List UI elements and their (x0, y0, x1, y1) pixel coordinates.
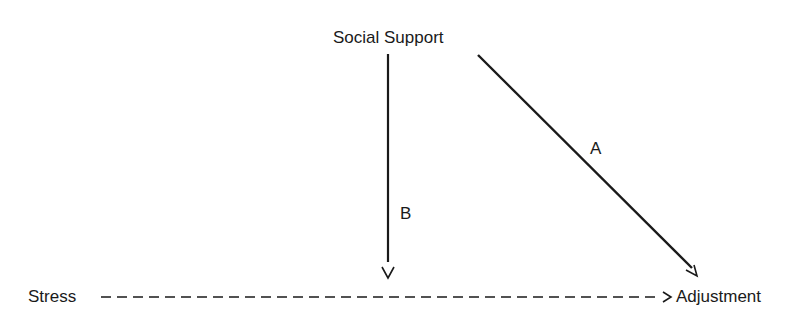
stress-adjustment-arrowhead-icon (663, 292, 671, 302)
path-b-arrowhead-icon (382, 267, 394, 278)
node-adjustment: Adjustment (676, 288, 761, 305)
path-a-line (478, 55, 692, 268)
diagram-canvas (0, 0, 807, 318)
node-stress: Stress (28, 288, 76, 305)
node-social-support: Social Support (333, 29, 444, 46)
path-b-label: B (400, 205, 411, 222)
path-a-label: A (590, 140, 601, 157)
